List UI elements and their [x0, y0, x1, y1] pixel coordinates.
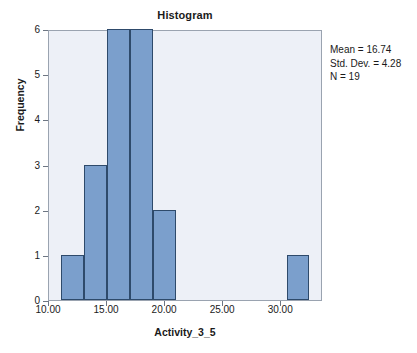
histogram-bar	[287, 255, 309, 300]
y-tick-label: 1	[18, 251, 40, 261]
histogram-bar	[153, 210, 175, 300]
x-tick-label: 15.00	[81, 305, 131, 315]
y-tick-label: 5	[18, 70, 40, 80]
x-tick-label: 10.00	[23, 305, 73, 315]
x-tick-label: 30.00	[255, 305, 305, 315]
statistics-annotation: Mean = 16.74 Std. Dev. = 4.28 N = 19	[330, 43, 401, 84]
stat-n: N = 19	[330, 70, 401, 84]
x-tick-label: 20.00	[139, 305, 189, 315]
y-tick-label: 2	[18, 206, 40, 216]
y-tick-label: 4	[18, 115, 40, 125]
chart-title: Histogram	[48, 9, 322, 21]
histogram-bar	[61, 255, 84, 300]
bars-container	[49, 31, 321, 300]
x-tick-label: 25.00	[197, 305, 247, 315]
histogram-bar	[130, 29, 153, 300]
stat-mean: Mean = 16.74	[330, 43, 401, 57]
y-tick-label: 6	[18, 25, 40, 35]
histogram-bar	[107, 29, 130, 300]
x-tick-mark	[280, 301, 281, 306]
stat-std-dev: Std. Dev. = 4.28	[330, 57, 401, 71]
y-tick-label: 3	[18, 161, 40, 171]
x-tick-mark	[106, 301, 107, 306]
x-tick-mark	[48, 301, 49, 306]
x-tick-mark	[164, 301, 165, 306]
plot-area	[48, 30, 322, 301]
x-tick-mark	[222, 301, 223, 306]
histogram-figure: Histogram Frequency 0123456 10.0015.0020…	[0, 0, 417, 353]
histogram-bar	[84, 165, 107, 301]
x-axis-title: Activity_3_5	[48, 326, 322, 338]
y-axis-title: Frequency	[14, 50, 26, 160]
